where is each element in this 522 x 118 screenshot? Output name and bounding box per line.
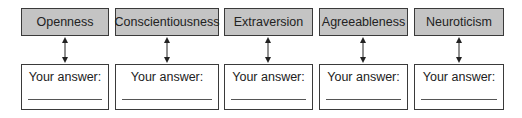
trait-column-neuroticism: Neuroticism Your answer: xyxy=(414,0,504,118)
answer-blank-line[interactable] xyxy=(122,99,212,100)
trait-column-conscientiousness: Conscientiousness Your answer: xyxy=(115,0,219,118)
double-arrow-icon xyxy=(454,37,464,63)
double-arrow-icon xyxy=(162,37,172,63)
double-arrow-icon xyxy=(358,37,368,63)
answer-box-neuroticism[interactable]: Your answer: xyxy=(414,64,504,110)
trait-box-agreeableness: Agreeableness xyxy=(319,8,408,36)
answer-label: Your answer: xyxy=(116,70,218,84)
trait-box-neuroticism: Neuroticism xyxy=(414,8,504,36)
answer-box-extraversion[interactable]: Your answer: xyxy=(224,64,313,110)
double-arrow-icon xyxy=(60,37,70,63)
trait-box-openness: Openness xyxy=(21,8,109,36)
answer-label: Your answer: xyxy=(415,70,503,84)
trait-box-conscientiousness: Conscientiousness xyxy=(115,8,219,36)
answer-blank-line[interactable] xyxy=(326,99,401,100)
answer-box-openness[interactable]: Your answer: xyxy=(21,64,109,110)
double-arrow-icon xyxy=(263,37,273,63)
answer-label: Your answer: xyxy=(320,70,407,84)
answer-blank-line[interactable] xyxy=(231,99,306,100)
trait-column-extraversion: Extraversion Your answer: xyxy=(224,0,313,118)
answer-blank-line[interactable] xyxy=(421,99,497,100)
trait-box-extraversion: Extraversion xyxy=(224,8,313,36)
trait-column-agreeableness: Agreeableness Your answer: xyxy=(319,0,408,118)
answer-box-conscientiousness[interactable]: Your answer: xyxy=(115,64,219,110)
answer-label: Your answer: xyxy=(22,70,108,84)
answer-box-agreeableness[interactable]: Your answer: xyxy=(319,64,408,110)
answer-blank-line[interactable] xyxy=(28,99,102,100)
answer-label: Your answer: xyxy=(225,70,312,84)
trait-column-openness: Openness Your answer: xyxy=(21,0,109,118)
